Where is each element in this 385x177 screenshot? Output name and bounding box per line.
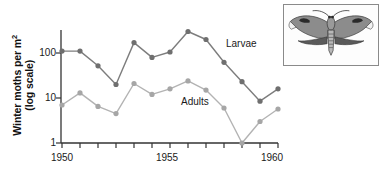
winter-moth-icon bbox=[284, 5, 378, 65]
data-point bbox=[167, 49, 172, 54]
data-point bbox=[239, 140, 244, 145]
data-point bbox=[221, 60, 226, 65]
data-point bbox=[149, 55, 154, 60]
data-point bbox=[167, 86, 172, 91]
data-point bbox=[131, 40, 136, 45]
data-point bbox=[275, 106, 280, 111]
data-point bbox=[131, 81, 136, 86]
data-point bbox=[113, 111, 118, 116]
data-point bbox=[59, 49, 64, 54]
data-point bbox=[59, 102, 64, 107]
data-point bbox=[149, 92, 154, 97]
data-point bbox=[185, 29, 190, 34]
data-point bbox=[95, 63, 100, 68]
x-axis-ticks bbox=[62, 143, 278, 148]
data-point bbox=[203, 37, 208, 42]
data-point bbox=[77, 49, 82, 54]
data-point bbox=[257, 119, 262, 124]
series-larvae bbox=[59, 29, 280, 104]
moth-specimen-inset bbox=[283, 4, 379, 66]
data-point bbox=[257, 99, 262, 104]
data-point bbox=[203, 88, 208, 93]
y-axis-ticks bbox=[56, 53, 61, 143]
data-point bbox=[185, 78, 190, 83]
data-series-layer bbox=[59, 29, 280, 146]
data-point bbox=[95, 104, 100, 109]
data-point bbox=[77, 90, 82, 95]
data-point bbox=[239, 79, 244, 84]
data-point bbox=[221, 105, 226, 110]
data-point bbox=[113, 82, 118, 87]
data-point bbox=[275, 86, 280, 91]
winter-moth-population-figure: Winter moths per m2 (log scale) 100 10 1… bbox=[0, 0, 385, 177]
